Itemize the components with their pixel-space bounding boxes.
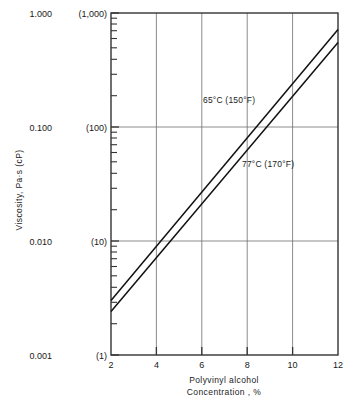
- viscosity-concentration-chart: 1.000 0.100 0.010 0.001 (1,000) (100) (1…: [0, 0, 346, 403]
- x-axis-title-line2: Concentration , %: [187, 387, 261, 397]
- y-tick-label-secondary: (10): [91, 237, 107, 247]
- x-tick-label: 2: [108, 360, 113, 370]
- y-axis-title: Viscosity, Pa·s (cP): [14, 150, 24, 231]
- chart-background: [0, 0, 346, 403]
- x-tick-label: 4: [154, 360, 159, 370]
- x-tick-label: 8: [245, 360, 250, 370]
- y-tick-label-secondary: (1,000): [78, 9, 107, 19]
- y-tick-label-primary: 1.000: [29, 9, 52, 19]
- x-tick-label: 10: [288, 360, 298, 370]
- y-tick-label-primary: 0.001: [29, 351, 52, 361]
- x-tick-label: 6: [199, 360, 204, 370]
- x-axis-title-line1: Polyvinyl alcohol: [189, 375, 259, 385]
- curve-label-77c: 77°C (170°F): [242, 159, 294, 169]
- y-tick-label-primary: 0.010: [29, 237, 52, 247]
- x-tick-label: 12: [333, 360, 343, 370]
- curve-label-65c: 65°C (150°F): [203, 95, 255, 105]
- y-tick-label-primary: 0.100: [29, 123, 52, 133]
- y-tick-label-secondary: (1): [96, 351, 107, 361]
- chart-svg: 1.000 0.100 0.010 0.001 (1,000) (100) (1…: [0, 0, 346, 403]
- y-tick-label-secondary: (100): [86, 123, 107, 133]
